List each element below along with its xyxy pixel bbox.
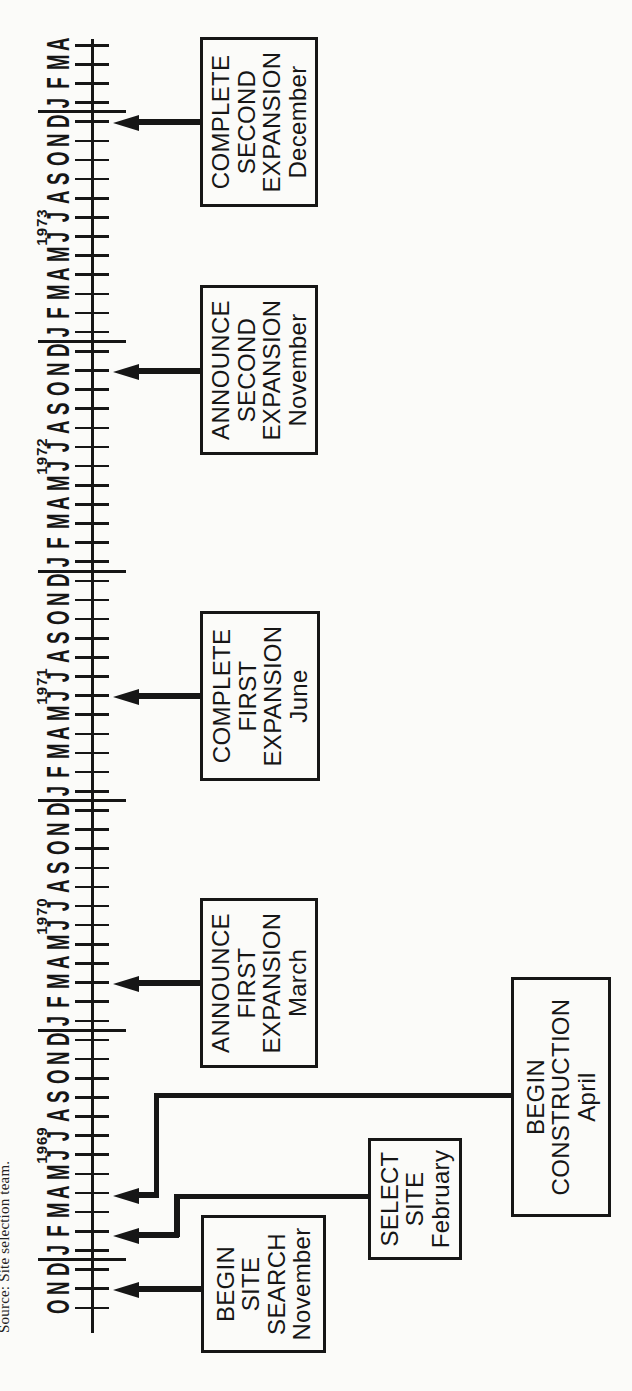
event-label-line: EXPANSION	[260, 626, 286, 767]
event-arrow-shaft	[137, 1286, 203, 1292]
month-tick	[75, 1077, 109, 1080]
event-label-line: FIRST	[234, 948, 260, 1019]
event-month-label: June	[286, 669, 312, 722]
event-month-label: December	[285, 65, 311, 178]
event-label-line: COMPLETE	[209, 629, 235, 763]
month-label: J	[44, 1015, 74, 1027]
month-label: M	[44, 977, 74, 989]
scanned-page: Source: Site selection team. ONDJFMAMJJA…	[0, 0, 632, 1391]
month-tick	[75, 1020, 109, 1023]
event-box-begin-site-search: BEGINSITESEARCHNovember	[201, 1215, 326, 1353]
event-label-line: ANNOUNCE	[208, 913, 234, 1053]
month-tick	[75, 350, 109, 353]
event-arrowhead	[113, 1228, 139, 1244]
month-label: D	[44, 116, 74, 128]
year-label: 1969	[33, 1115, 50, 1175]
month-tick	[75, 1287, 109, 1290]
month-tick	[75, 1000, 109, 1003]
event-box-begin-construction: BEGINCONSTRUCTIONApril	[511, 977, 611, 1217]
month-label: N	[44, 364, 74, 376]
month-tick	[75, 828, 109, 831]
month-tick	[75, 1268, 109, 1271]
year-divider-line	[38, 111, 126, 114]
event-box-complete-first-expansion: COMPLETEFIRSTEXPANSIONJune	[200, 611, 320, 781]
month-tick	[75, 790, 109, 793]
event-label-line: SITE	[402, 1172, 428, 1227]
month-tick	[75, 1307, 109, 1310]
month-tick	[75, 293, 109, 296]
month-label: D	[44, 804, 74, 816]
month-label: J	[44, 1244, 74, 1256]
event-connector-segment	[154, 1093, 514, 1099]
month-label: O	[44, 384, 74, 396]
event-label-line: CONSTRUCTION	[548, 999, 574, 1196]
month-tick	[75, 943, 109, 946]
month-label: S	[44, 632, 74, 644]
event-arrow-shaft	[137, 1232, 179, 1238]
month-tick	[75, 809, 109, 812]
month-tick	[75, 1134, 109, 1137]
month-tick	[75, 1249, 109, 1252]
month-label: A	[44, 269, 74, 281]
month-label: A	[44, 728, 74, 740]
timeline-axis	[91, 39, 94, 1333]
month-tick	[75, 599, 109, 602]
month-tick	[75, 713, 109, 716]
month-tick	[75, 694, 109, 697]
month-label: F	[44, 1225, 74, 1237]
year-label: 1972	[33, 426, 50, 486]
month-tick	[75, 886, 109, 889]
event-box-announce-second-expansion: ANNOUNCESECONDEXPANSIONNovember	[200, 285, 318, 455]
month-tick	[75, 63, 109, 66]
month-tick	[75, 369, 109, 372]
month-label: O	[44, 154, 74, 166]
event-arrowhead	[113, 976, 139, 992]
event-box-complete-second-expansion: COMPLETESECONDEXPANSIONDecember	[200, 37, 318, 207]
event-arrow-shaft	[137, 980, 202, 986]
month-tick	[75, 656, 109, 659]
month-tick	[75, 1153, 109, 1156]
month-tick	[75, 197, 109, 200]
month-tick	[75, 312, 109, 315]
month-tick	[75, 905, 109, 908]
month-label: O	[44, 613, 74, 625]
month-tick	[75, 733, 109, 736]
event-connector-segment	[174, 1195, 180, 1238]
month-tick	[75, 924, 109, 927]
month-label: M	[44, 517, 74, 529]
event-label-line: SECOND	[234, 70, 260, 174]
month-tick	[75, 140, 109, 143]
month-label: J	[44, 326, 74, 338]
year-label: 1971	[33, 656, 50, 716]
event-label-line: BEGIN	[213, 1246, 239, 1322]
month-tick	[75, 120, 109, 123]
month-label: D	[44, 1034, 74, 1046]
month-tick	[75, 427, 109, 430]
month-label: S	[44, 1091, 74, 1103]
event-arrowhead	[113, 115, 139, 131]
event-label-line: EXPANSION	[259, 52, 285, 193]
month-label: D	[44, 575, 74, 587]
event-connector-segment	[154, 1094, 160, 1198]
event-label-line: SITE	[238, 1257, 264, 1312]
month-tick	[75, 388, 109, 391]
event-connector-segment	[174, 1194, 370, 1200]
timeline-canvas: Source: Site selection team. ONDJFMAMJJA…	[0, 0, 632, 1391]
month-tick	[75, 1211, 109, 1214]
month-tick	[75, 541, 109, 544]
event-month-label: February	[428, 1150, 454, 1248]
year-divider-line	[38, 799, 126, 802]
month-label: N	[44, 1053, 74, 1065]
year-label: 1973	[33, 197, 50, 257]
month-label: F	[44, 996, 74, 1008]
month-label: S	[44, 173, 74, 185]
event-month-label: April	[574, 1072, 600, 1122]
month-label: F	[44, 307, 74, 319]
event-arrowhead	[113, 1282, 139, 1298]
month-label: S	[44, 862, 74, 874]
month-tick	[75, 465, 109, 468]
month-label: A	[44, 957, 74, 969]
month-tick	[75, 178, 109, 181]
month-label: D	[44, 345, 74, 357]
month-tick	[75, 235, 109, 238]
